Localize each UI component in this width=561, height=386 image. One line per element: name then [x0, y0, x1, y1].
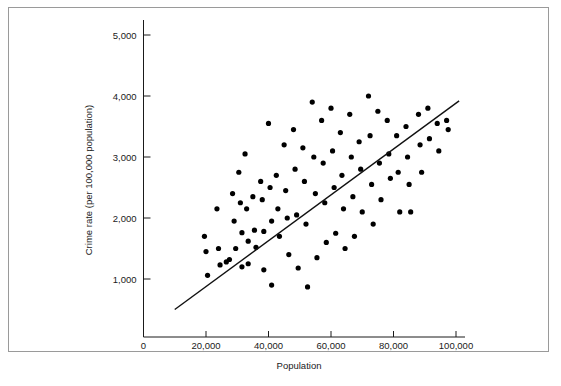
data-point [244, 206, 249, 211]
axes [144, 20, 466, 337]
scatter-plot: 020,00040,00060,00080,000100,000 1,0002,… [0, 0, 561, 386]
data-point [285, 215, 290, 220]
data-point [269, 218, 274, 223]
data-point [385, 118, 390, 123]
x-axis-title: Population [277, 360, 322, 371]
data-point [388, 176, 393, 181]
data-point [310, 100, 315, 105]
data-point [250, 194, 255, 199]
data-point [425, 106, 430, 111]
data-point [230, 191, 235, 196]
data-point [330, 148, 335, 153]
y-tick-label: 2,000 [113, 213, 137, 224]
data-point [214, 206, 219, 211]
data-point [238, 200, 243, 205]
data-point [407, 182, 412, 187]
y-tick-label: 4,000 [113, 91, 137, 102]
data-point [349, 154, 354, 159]
data-point [360, 209, 365, 214]
data-point [342, 246, 347, 251]
data-point [269, 283, 274, 288]
data-point [205, 273, 210, 278]
data-point [311, 154, 316, 159]
data-point [405, 154, 410, 159]
data-point [339, 173, 344, 178]
x-tick-label: 100,000 [439, 340, 473, 351]
data-point [319, 118, 324, 123]
y-tick-label: 3,000 [113, 152, 137, 163]
data-point [291, 127, 296, 132]
data-point [233, 246, 238, 251]
x-tick-label: 40,000 [254, 340, 283, 351]
data-point [371, 222, 376, 227]
data-point [274, 173, 279, 178]
x-tick-label: 20,000 [191, 340, 220, 351]
data-point [332, 185, 337, 190]
data-point [236, 170, 241, 175]
data-point [258, 179, 263, 184]
x-tick-label: 60,000 [316, 340, 345, 351]
data-point [232, 218, 237, 223]
data-point [305, 284, 310, 289]
data-point [282, 142, 287, 147]
data-point [357, 139, 362, 144]
data-point [408, 209, 413, 214]
data-point [217, 262, 222, 267]
data-point [267, 185, 272, 190]
figure-container: 020,00040,00060,00080,000100,000 1,0002,… [0, 0, 561, 386]
data-point [239, 264, 244, 269]
data-point [366, 93, 371, 98]
data-point [324, 240, 329, 245]
data-point [242, 151, 247, 156]
data-points [202, 93, 451, 289]
data-point [296, 265, 301, 270]
data-point [300, 145, 305, 150]
data-point [341, 206, 346, 211]
regression-line [175, 101, 459, 310]
data-point [397, 209, 402, 214]
data-point [203, 249, 208, 254]
data-point [321, 161, 326, 166]
data-point [328, 106, 333, 111]
data-point [375, 109, 380, 114]
data-point [446, 127, 451, 132]
data-point [283, 188, 288, 193]
data-point [347, 112, 352, 117]
y-axis-title: Crime rate (per 100,000 population) [83, 105, 94, 256]
data-point [227, 257, 232, 262]
y-tick-label: 1,000 [113, 274, 137, 285]
axis-lines [144, 20, 466, 337]
data-point [367, 133, 372, 138]
x-tick-label: 80,000 [379, 340, 408, 351]
data-point [252, 228, 257, 233]
data-point [266, 121, 271, 126]
data-point [333, 231, 338, 236]
data-point [350, 194, 355, 199]
data-point [403, 124, 408, 129]
data-point [338, 130, 343, 135]
data-point [314, 255, 319, 260]
x-axis-ticks: 020,00040,00060,00080,000100,000 [141, 331, 473, 351]
data-point [444, 118, 449, 123]
data-point [246, 239, 251, 244]
data-point [294, 212, 299, 217]
y-tick-label: 5,000 [113, 30, 137, 41]
data-point [313, 191, 318, 196]
data-point [286, 252, 291, 257]
data-point [419, 170, 424, 175]
data-point [216, 246, 221, 251]
data-point [303, 222, 308, 227]
data-point [275, 206, 280, 211]
x-tick-label: 0 [141, 340, 146, 351]
data-point [292, 167, 297, 172]
data-point [435, 121, 440, 126]
data-point [378, 197, 383, 202]
data-point [352, 234, 357, 239]
y-axis-ticks: 1,0002,0003,0004,0005,000 [113, 30, 151, 285]
data-point [369, 182, 374, 187]
data-point [427, 136, 432, 141]
data-point [394, 133, 399, 138]
data-point [302, 179, 307, 184]
data-point [261, 229, 266, 234]
data-point [202, 234, 207, 239]
